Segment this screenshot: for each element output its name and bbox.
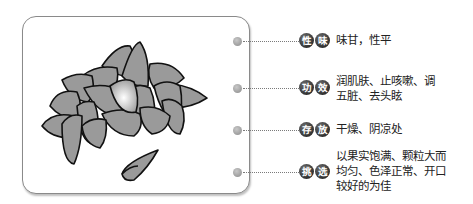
- property-row-efficacy: 功 效 润肌肤、止咳嗽、调 五脏、去头眩: [233, 84, 466, 104]
- badge-char: 性: [299, 33, 314, 48]
- badge-char: 选: [315, 164, 330, 179]
- property-row-selection: 挑 选 以果实饱满、颗粒大而 均匀、色泽正常、开口 较好的为佳: [233, 168, 466, 194]
- pine-nuts-illustration: [22, 16, 248, 192]
- text-line: 均匀、色泽正常、开口: [336, 164, 466, 179]
- label-badge: 功 效: [299, 80, 330, 95]
- bullet-dot-icon: [233, 37, 242, 46]
- dotted-leader-line: [243, 130, 299, 131]
- badge-char: 存: [299, 122, 314, 137]
- property-text: 以果实饱满、颗粒大而 均匀、色泽正常、开口 较好的为佳: [336, 149, 466, 194]
- text-line: 干燥、阴凉处: [336, 122, 466, 137]
- label-badge: 性 味: [299, 33, 330, 48]
- text-line: 较好的为佳: [336, 179, 466, 194]
- badge-char: 挑: [299, 164, 314, 179]
- property-row-nature-flavor: 性 味 味甘，性平: [233, 37, 466, 48]
- badge-char: 功: [299, 80, 314, 95]
- text-line: 味甘，性平: [336, 33, 466, 48]
- badge-char: 放: [315, 122, 330, 137]
- dotted-leader-line: [243, 172, 299, 173]
- dotted-leader-line: [243, 88, 299, 89]
- bullet-dot-icon: [233, 168, 242, 177]
- text-line: 润肌肤、止咳嗽、调: [336, 74, 466, 89]
- label-badge: 存 放: [299, 122, 330, 137]
- text-line: 五脏、去头眩: [336, 89, 466, 104]
- property-text: 干燥、阴凉处: [336, 122, 466, 137]
- bullet-dot-icon: [233, 84, 242, 93]
- property-row-storage: 存 放 干燥、阴凉处: [233, 126, 466, 137]
- label-badge: 挑 选: [299, 164, 330, 179]
- badge-char: 效: [315, 80, 330, 95]
- bullet-dot-icon: [233, 126, 242, 135]
- dotted-leader-line: [243, 41, 299, 42]
- text-line: 以果实饱满、颗粒大而: [336, 149, 466, 164]
- property-text: 味甘，性平: [336, 33, 466, 48]
- badge-char: 味: [315, 33, 330, 48]
- property-text: 润肌肤、止咳嗽、调 五脏、去头眩: [336, 74, 466, 104]
